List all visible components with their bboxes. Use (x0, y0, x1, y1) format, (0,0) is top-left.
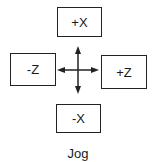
jog-minus-z-label: -Z (27, 62, 39, 77)
jog-plus-x-button[interactable]: +X (57, 7, 102, 37)
jog-plus-z-label: +Z (116, 65, 132, 80)
jog-plus-x-label: +X (71, 15, 87, 30)
jog-minus-x-label: -X (72, 111, 85, 126)
four-way-arrow-icon (56, 45, 100, 95)
jog-caption: Jog (0, 146, 156, 161)
jog-minus-z-button[interactable]: -Z (10, 53, 56, 86)
jog-plus-z-button[interactable]: +Z (101, 55, 147, 89)
jog-minus-x-button[interactable]: -X (56, 104, 101, 133)
